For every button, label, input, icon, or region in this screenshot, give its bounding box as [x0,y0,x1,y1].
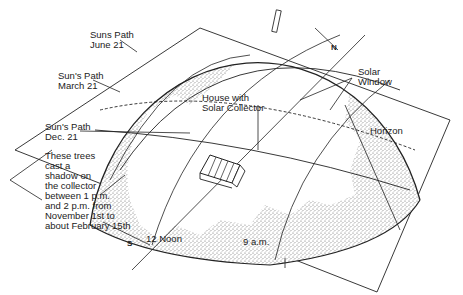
solar-window-diagram [0,0,463,295]
label-horizon: Horizon [370,126,403,136]
label-suns-path-june: Suns Path June 21 [90,30,134,50]
label-north: N [331,43,337,53]
zenith-pole [272,10,281,33]
label-nine-am: 9 a.m. [243,237,269,247]
label-suns-path-dec: Sun's Path Dec. 21 [45,122,91,142]
label-trees-note: These trees cast a shadow on the collect… [45,151,131,231]
label-suns-path-march: Sun's Path March 21 [58,71,104,91]
label-house: House with Solar Collector [202,93,264,113]
label-solar-window: Solar Window [358,67,392,87]
label-south: S [127,239,132,249]
label-noon: 12 Noon [146,234,182,244]
